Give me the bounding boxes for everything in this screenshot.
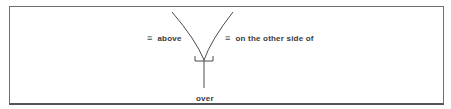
bottom-label: over: [196, 94, 214, 103]
y-branch-diagram: [0, 0, 451, 109]
left-label-text: above: [157, 34, 181, 43]
bottom-label-text: over: [196, 94, 214, 103]
right-label-text: on the other side of: [235, 34, 313, 43]
right-label: ≡on the other side of: [225, 33, 314, 43]
left-label: ≡above: [147, 33, 182, 43]
equivalence-icon: ≡: [225, 33, 230, 43]
equivalence-icon: ≡: [147, 33, 152, 43]
